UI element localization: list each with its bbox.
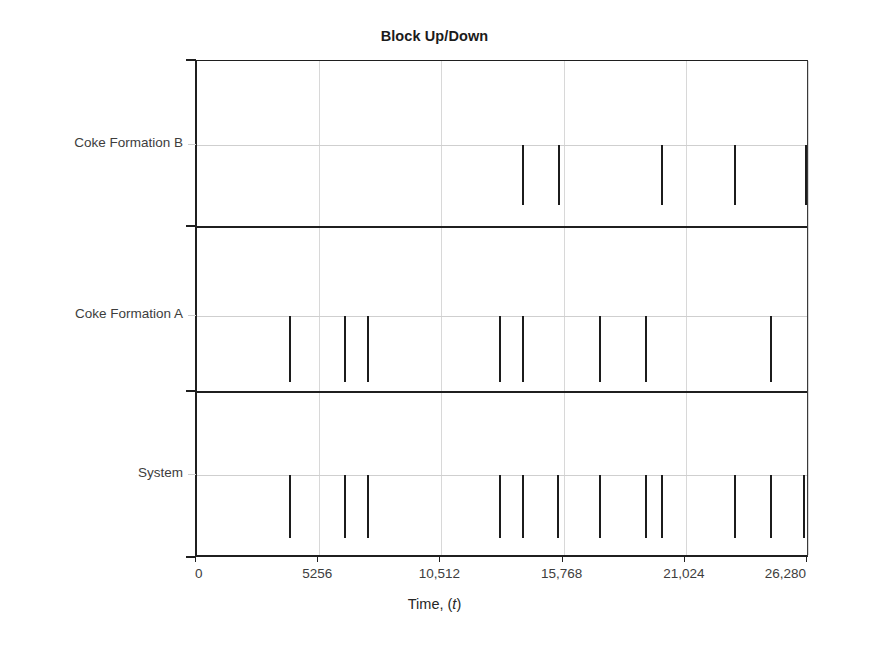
y-axis-tick: [188, 474, 196, 475]
y-axis-tick: [188, 315, 196, 316]
event-bar: [367, 316, 369, 382]
x-axis-tick: [439, 556, 440, 562]
event-bar: [599, 316, 601, 382]
panel-separator: [197, 391, 807, 393]
plot-area: [195, 60, 808, 557]
x-axis-tick: [684, 556, 685, 562]
event-bar: [734, 145, 736, 205]
event-bar: [289, 475, 291, 538]
x-axis-title-text: Time, (t): [408, 596, 461, 612]
event-bar: [522, 475, 524, 538]
y-axis-label-coke-formation-b: Coke Formation B: [3, 135, 183, 150]
event-bar: [289, 316, 291, 382]
y-axis-tick: [188, 144, 196, 145]
y-axis-label-system: System: [3, 465, 183, 480]
event-bar: [344, 316, 346, 382]
y-axis-label-coke-formation-a: Coke Formation A: [3, 306, 183, 321]
x-axis-tick: [562, 556, 563, 562]
event-bar: [599, 475, 601, 538]
x-axis-title: Time, (t): [0, 596, 869, 612]
event-bar: [522, 316, 524, 382]
chart-title: Block Up/Down: [0, 28, 869, 44]
event-bar: [499, 475, 501, 538]
event-bar: [770, 316, 772, 382]
event-bar: [661, 145, 663, 205]
x-axis-tick-label: 15,768: [541, 566, 582, 581]
x-axis-tick-label: 5256: [302, 566, 332, 581]
x-axis-tick-label: 26,280: [765, 566, 806, 581]
y-axis-major-tick: [186, 390, 196, 392]
panel-baseline-gridline: [197, 145, 807, 146]
event-bar: [805, 145, 807, 205]
x-gridline: [808, 61, 809, 555]
y-axis-top-tick: [186, 59, 196, 61]
event-bar: [645, 316, 647, 382]
x-axis-tick-label: 0: [195, 566, 203, 581]
panel-separator: [197, 226, 807, 228]
event-bar: [770, 475, 772, 538]
event-bar: [499, 316, 501, 382]
x-gridline: [319, 61, 320, 555]
x-axis-tick: [317, 556, 318, 562]
x-gridline: [686, 61, 687, 555]
x-gridline: [564, 61, 565, 555]
x-gridline: [441, 61, 442, 555]
x-axis-title-variable: t: [452, 596, 456, 612]
x-axis-tick-label: 10,512: [419, 566, 460, 581]
event-bar: [522, 145, 524, 205]
chart-root: Block Up/Down Coke Formation BCoke Forma…: [0, 0, 869, 651]
event-bar: [734, 475, 736, 538]
x-axis-tick: [806, 556, 807, 562]
event-bar: [344, 475, 346, 538]
x-axis-tick-label: 21,024: [663, 566, 704, 581]
event-bar: [557, 475, 559, 538]
event-bar: [645, 475, 647, 538]
event-bar: [367, 475, 369, 538]
x-axis-tick: [195, 556, 196, 562]
event-bar: [558, 145, 560, 205]
event-bar: [803, 475, 805, 538]
event-bar: [661, 475, 663, 538]
y-axis-major-tick: [186, 225, 196, 227]
